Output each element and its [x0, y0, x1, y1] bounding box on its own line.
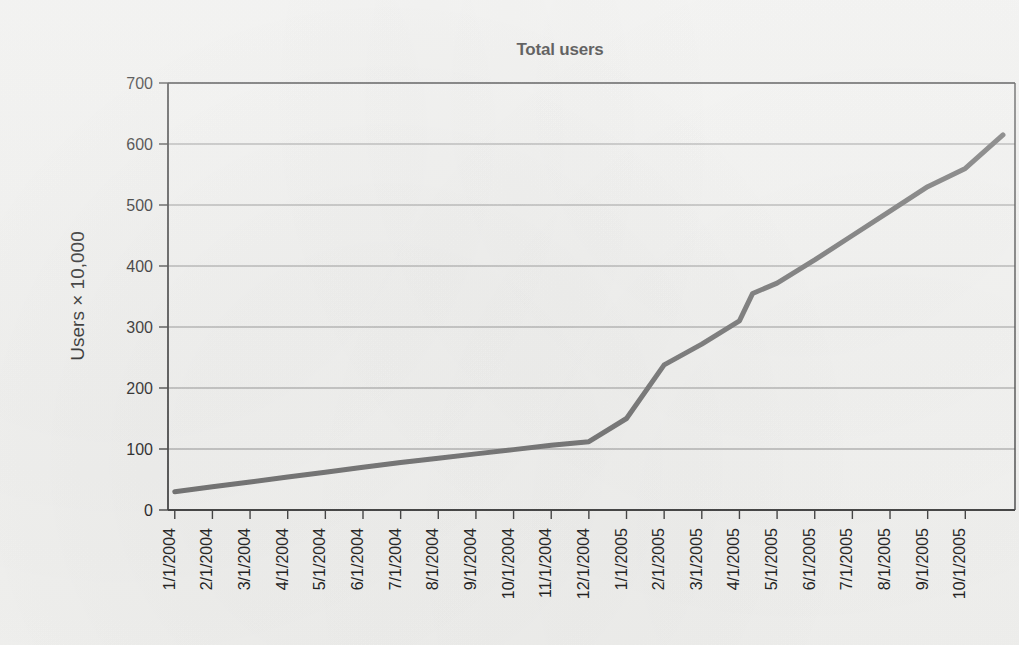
x-tick-label: 10/1/2005	[951, 528, 968, 599]
x-tick-label: 12/1/2004	[575, 528, 592, 599]
x-tick-label: 10/1/2004	[500, 528, 517, 599]
x-tick-marks	[175, 510, 966, 519]
x-tick-label: 2/1/2005	[650, 528, 667, 590]
y-tick-label: 700	[126, 75, 153, 92]
chart-title: Total users	[516, 40, 603, 59]
x-tick-label: 6/1/2005	[801, 528, 818, 590]
x-tick-label: 4/1/2004	[274, 528, 291, 590]
y-tick-label: 400	[126, 258, 153, 275]
x-tick-label: 9/1/2005	[914, 528, 931, 590]
total-users-line-chart: 0100200300400500600700 1/1/20042/1/20043…	[40, 16, 979, 629]
x-tick-label: 4/1/2005	[725, 528, 742, 590]
y-tick-label: 100	[126, 441, 153, 458]
y-tick-label: 200	[126, 380, 153, 397]
x-tick-labels: 1/1/20042/1/20043/1/20044/1/20045/1/2004…	[161, 528, 969, 599]
y-tick-label: 0	[144, 502, 153, 519]
x-tick-label: 8/1/2004	[424, 528, 441, 590]
y-tick-label: 600	[126, 136, 153, 153]
x-tick-label: 1/1/2005	[613, 528, 630, 590]
x-tick-label: 5/1/2004	[311, 528, 328, 590]
y-tick-marks	[159, 83, 168, 510]
y-tick-label: 300	[126, 319, 153, 336]
x-tick-label: 3/1/2004	[236, 528, 253, 590]
x-tick-label: 7/1/2004	[387, 528, 404, 590]
x-tick-label: 6/1/2004	[349, 528, 366, 590]
plot-area-background	[168, 83, 1015, 510]
x-tick-label: 9/1/2004	[462, 528, 479, 590]
x-tick-label: 5/1/2005	[763, 528, 780, 590]
x-tick-label: 3/1/2005	[688, 528, 705, 590]
y-tick-label: 500	[126, 197, 153, 214]
chart-canvas: 0100200300400500600700 1/1/20042/1/20043…	[40, 16, 1019, 645]
y-axis-title: Users × 10,000	[67, 231, 88, 360]
x-tick-label: 7/1/2005	[838, 528, 855, 590]
x-tick-label: 8/1/2005	[876, 528, 893, 590]
y-tick-labels: 0100200300400500600700	[126, 75, 153, 519]
x-tick-label: 1/1/2004	[161, 528, 178, 590]
x-tick-label: 11/1/2004	[537, 528, 554, 598]
x-tick-label: 2/1/2004	[198, 528, 215, 590]
